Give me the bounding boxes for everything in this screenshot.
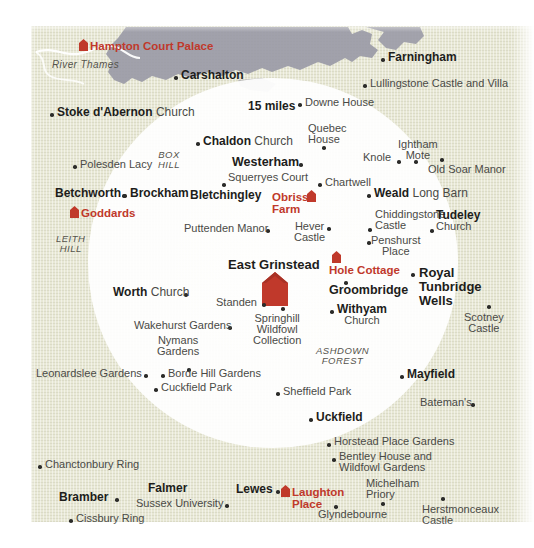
label-westerham: Westerham bbox=[232, 156, 299, 169]
label-downe-house: Downe House bbox=[305, 97, 374, 108]
label-michelham-priory: Michelham Priory bbox=[366, 478, 419, 500]
top-edge-fade bbox=[0, 0, 534, 32]
label-batemans: Bateman's bbox=[420, 397, 472, 408]
label-springhill-wildfowl-collection: Springhill Wildfowl Collection bbox=[253, 313, 301, 347]
label-wakehurst-gardens: Wakehurst Gardens bbox=[134, 320, 231, 331]
house-marker-icon-large bbox=[262, 272, 288, 306]
dot-lewes bbox=[276, 490, 280, 494]
label-ashdown-forest: ASHDOWN FOREST bbox=[316, 346, 369, 365]
label-quebec-house: Quebec House bbox=[308, 123, 347, 145]
label-brockham: Brockham bbox=[130, 187, 189, 199]
dot-cuckfield-park bbox=[154, 388, 158, 392]
label-farningham: Farningham bbox=[388, 51, 457, 63]
label-weald-long-barn: Weald Long Barn bbox=[374, 187, 468, 199]
dot-chanctonbury-ring bbox=[38, 465, 42, 469]
map-canvas: 15 miles River Thames BOX HILL LEITH HIL… bbox=[0, 0, 534, 548]
dot-withyam-church bbox=[330, 310, 334, 314]
dot-bramber bbox=[115, 498, 119, 502]
dot-herstmonceaux-castle bbox=[441, 497, 445, 501]
label-falmer: Falmer bbox=[148, 482, 187, 494]
dot-borde-hill-gardens bbox=[161, 374, 165, 378]
ashdown-forest-line2: FOREST bbox=[316, 356, 369, 366]
label-old-soar-manor: Old Soar Manor bbox=[428, 164, 506, 175]
east-grinstead-text: East Grinstead bbox=[228, 257, 320, 272]
label-sussex-university: Sussex University bbox=[136, 498, 223, 509]
label-east-grinstead: East Grinstead bbox=[228, 258, 320, 271]
label-sheffield-park: Sheffield Park bbox=[283, 386, 351, 397]
dot-bentley-house bbox=[332, 458, 336, 462]
scale-label: 15 miles bbox=[248, 99, 295, 113]
label-leith-hill: LEITH HILL bbox=[56, 234, 85, 253]
dot-chaldon bbox=[196, 142, 200, 146]
dot-springhill bbox=[281, 307, 285, 311]
dot-standen bbox=[262, 303, 266, 307]
label-chanctonbury-ring: Chanctonbury Ring bbox=[45, 459, 139, 470]
label-scotney-castle: Scotney Castle bbox=[464, 312, 504, 334]
house-marker-icon bbox=[70, 206, 79, 218]
label-horstead-place-gardens: Horstead Place Gardens bbox=[334, 436, 454, 447]
house-marker-icon bbox=[79, 39, 88, 51]
label-obriss-farm: Obriss Farm bbox=[272, 192, 308, 215]
obriss-farm-line1: Obriss bbox=[272, 192, 308, 204]
dot-scotney-castle bbox=[487, 305, 491, 309]
dot-farningham bbox=[381, 58, 385, 62]
label-knole: Knole bbox=[363, 152, 391, 163]
dot-sheffield-park bbox=[276, 392, 280, 396]
label-hampton-court-palace: Hampton Court Palace bbox=[90, 41, 213, 53]
label-borde-hill-gardens: Borde Hill Gardens bbox=[168, 368, 261, 379]
dot-leonardslee-gardens bbox=[144, 374, 148, 378]
label-chiddingstone-castle: Chiddingstone Castle bbox=[375, 209, 445, 231]
house-marker-icon bbox=[332, 251, 341, 263]
label-tudeley-church: Tudeley Church bbox=[436, 209, 480, 232]
box-hill-line2: HILL bbox=[158, 160, 180, 170]
dot-polesden-lacy bbox=[73, 165, 77, 169]
laughton-place-line1: Laughton bbox=[292, 487, 344, 499]
dot-royal-tunbridge-wells bbox=[411, 273, 415, 277]
dot-quebec-house bbox=[322, 146, 326, 150]
label-puttenden-manor: Puttenden Manor bbox=[184, 223, 268, 234]
label-stoke-dabernon-church: Stoke d'Abernon Church bbox=[57, 106, 195, 118]
label-mayfield: Mayfield bbox=[407, 368, 455, 380]
label-polesden-lacy: Polesden Lacy bbox=[80, 159, 152, 170]
dot-sussex-university bbox=[225, 504, 229, 508]
label-lewes: Lewes bbox=[236, 483, 273, 495]
label-hole-cottage: Hole Cottage bbox=[329, 265, 400, 277]
dot-brockham bbox=[123, 194, 127, 198]
label-penshurst-place: Penshurst Place bbox=[371, 235, 421, 257]
dot-horstead-place bbox=[327, 443, 331, 447]
dot-bletchingley bbox=[222, 183, 226, 187]
dot-chartwell bbox=[318, 183, 322, 187]
label-chaldon-church: Chaldon Church bbox=[203, 135, 293, 147]
label-chartwell: Chartwell bbox=[325, 177, 371, 188]
label-leonardslee-gardens: Leonardslee Gardens bbox=[36, 368, 142, 379]
label-hever-castle: Hever Castle bbox=[294, 221, 325, 243]
label-groombridge: Groombridge bbox=[329, 284, 408, 297]
dot-chiddingstone-castle bbox=[368, 228, 372, 232]
label-royal-tunbridge-wells: Royal Tunbridge Wells bbox=[419, 266, 482, 308]
label-ightham-mote: Ightham Mote bbox=[398, 139, 438, 161]
label-river-thames: River Thames bbox=[52, 60, 119, 70]
dot-westerham bbox=[299, 163, 303, 167]
obriss-farm-line2: Farm bbox=[272, 204, 308, 216]
label-betchworth: Betchworth bbox=[55, 187, 121, 199]
dot-old-soar-manor bbox=[440, 158, 444, 162]
dot-lullingstone bbox=[363, 84, 367, 88]
dot-mayfield bbox=[400, 375, 404, 379]
label-bramber: Bramber bbox=[59, 491, 108, 503]
dot-carshalton bbox=[174, 76, 178, 80]
house-marker-icon bbox=[281, 485, 290, 497]
label-withyam-church: Withyam Church bbox=[337, 303, 387, 326]
label-worth-church: Worth Church bbox=[113, 286, 189, 298]
dot-michelham-priory bbox=[381, 502, 385, 506]
dot-penshurst-place bbox=[367, 241, 371, 245]
bottom-edge-fade bbox=[0, 522, 534, 548]
label-nymans-gardens: Nymans Gardens bbox=[157, 335, 199, 357]
label-bletchingley: Bletchingley bbox=[190, 189, 261, 201]
leith-hill-line2: HILL bbox=[56, 244, 85, 254]
label-glyndebourne: Glyndebourne bbox=[318, 509, 387, 520]
left-edge-fade bbox=[0, 0, 36, 548]
label-box-hill: BOX HILL bbox=[158, 150, 180, 169]
label-squerryes-court: Squerryes Court bbox=[228, 172, 308, 183]
dot-downe-house bbox=[298, 103, 302, 107]
dot-uckfield bbox=[309, 418, 313, 422]
